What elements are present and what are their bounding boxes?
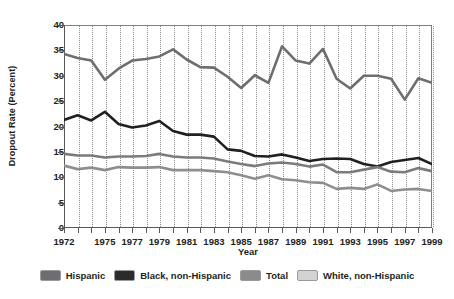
gridline xyxy=(433,26,434,227)
y-axis: 0510152025303540 xyxy=(0,25,64,228)
legend-label: Hispanic xyxy=(66,270,106,281)
x-axis-tick-mark xyxy=(296,228,297,233)
x-axis-tick-mark xyxy=(268,228,269,233)
y-axis-tick-label: 25 xyxy=(8,95,64,107)
x-axis-tick-mark xyxy=(241,228,242,233)
x-axis-tick-mark xyxy=(146,228,147,233)
x-axis-tick-mark xyxy=(432,228,433,233)
series-lines xyxy=(64,25,432,228)
series-line-white-non-hispanic xyxy=(64,166,432,191)
legend-label: Black, non-Hispanic xyxy=(140,270,231,281)
x-axis-tick-mark xyxy=(64,228,65,233)
y-axis-tick-label: 30 xyxy=(8,70,64,82)
plot-area xyxy=(64,25,432,228)
legend-swatch-icon xyxy=(114,270,135,281)
legend-swatch-icon xyxy=(40,270,61,281)
x-axis-tick-mark xyxy=(187,228,188,233)
x-axis-tick-mark xyxy=(132,228,133,233)
y-axis-tick-label: 5 xyxy=(8,197,64,209)
x-axis-tick-mark xyxy=(105,228,106,233)
y-axis-tick-label: 15 xyxy=(8,146,64,158)
x-axis-tick-mark xyxy=(282,228,283,233)
x-axis-tick-mark xyxy=(391,228,392,233)
x-axis-tick-mark xyxy=(255,228,256,233)
dropout-rate-line-chart: Dropout Rate (Percent) 0510152025303540 … xyxy=(0,0,454,299)
legend-label: Total xyxy=(266,270,288,281)
y-axis-tick-label: 10 xyxy=(8,171,64,183)
x-axis-tick-mark xyxy=(91,228,92,233)
x-axis-tick-mark xyxy=(405,228,406,233)
x-axis-tick-mark xyxy=(119,228,120,233)
legend-item-total[interactable]: Total xyxy=(240,270,288,281)
legend-item-hispanic[interactable]: Hispanic xyxy=(40,270,106,281)
x-axis-tick-mark xyxy=(173,228,174,233)
chart-legend: HispanicBlack, non-HispanicTotalWhite, n… xyxy=(0,264,454,286)
x-axis-tick-mark xyxy=(350,228,351,233)
x-axis-title: Year xyxy=(64,246,432,257)
y-axis-tick-label: 40 xyxy=(8,19,64,31)
x-axis-tick-mark xyxy=(228,228,229,233)
y-axis-tick-label: 0 xyxy=(8,222,64,234)
x-axis-tick-mark xyxy=(214,228,215,233)
y-axis-tick-label: 20 xyxy=(8,121,64,133)
legend-label: White, non-Hispanic xyxy=(323,270,414,281)
x-axis-tick-mark xyxy=(200,228,201,233)
y-axis-tick-label: 35 xyxy=(8,44,64,56)
series-line-black-non-hispanic xyxy=(64,112,432,167)
legend-item-white-non-hispanic[interactable]: White, non-Hispanic xyxy=(297,270,414,281)
x-axis-tick-mark xyxy=(159,228,160,233)
series-line-hispanic xyxy=(64,46,432,99)
series-line-total xyxy=(64,154,432,172)
legend-swatch-icon xyxy=(297,270,318,281)
x-axis-tick-mark xyxy=(309,228,310,233)
x-axis-tick-mark xyxy=(418,228,419,233)
x-axis-tick-mark xyxy=(377,228,378,233)
x-axis-tick-mark xyxy=(78,228,79,233)
legend-swatch-icon xyxy=(240,270,261,281)
legend-item-black-non-hispanic[interactable]: Black, non-Hispanic xyxy=(114,270,231,281)
x-axis-tick-mark xyxy=(364,228,365,233)
x-axis-tick-mark xyxy=(337,228,338,233)
x-axis-tick-mark xyxy=(323,228,324,233)
